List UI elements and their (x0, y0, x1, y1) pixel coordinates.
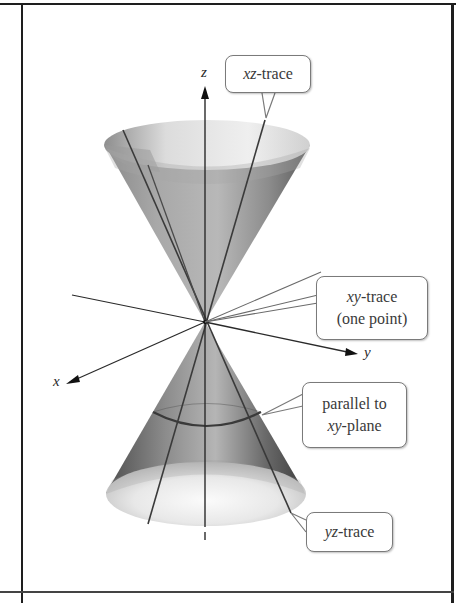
parallel-line1: parallel to (303, 393, 406, 415)
xz-trace-text: -trace (256, 65, 292, 82)
yz-trace-callout: yz-trace (306, 512, 393, 552)
parallel-callout-pointer (262, 394, 303, 415)
xz-trace-italic: xz (243, 65, 256, 82)
y-axis-label: y (364, 344, 371, 361)
z-axis-arrowhead (201, 86, 209, 99)
xy-trace-italic: xy (347, 288, 361, 305)
parallel-italic: xy (327, 417, 341, 434)
x-axis-arrowhead (66, 375, 80, 384)
y-axis-arrowhead (345, 348, 358, 356)
yz-trace-text: -trace (338, 523, 374, 540)
xy-trace-callout: xy-trace (one point) (316, 276, 428, 340)
parallel-text: -plane (342, 417, 382, 434)
xz-trace-callout: xz-trace (225, 55, 311, 93)
yz-callout-pointer (291, 513, 306, 532)
parallel-to-xy-plane-callout: parallel to xy-plane (302, 382, 407, 448)
xz-callout-pointer (262, 93, 275, 118)
xy-trace-text: -trace (361, 288, 397, 305)
x-axis-label: x (53, 373, 60, 390)
xy-trace-line2: (one point) (317, 308, 427, 330)
yz-trace-italic: yz (325, 523, 338, 540)
z-axis-label: z (201, 64, 207, 81)
